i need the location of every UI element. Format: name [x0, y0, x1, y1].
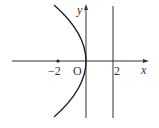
origin-label: O [73, 64, 82, 78]
y-axis-label: y [76, 3, 83, 17]
parabola-diagram: y x O −2 2 [0, 0, 159, 128]
y-axis-arrow-icon [84, 4, 88, 10]
focus-point [56, 59, 59, 62]
neg-two-label: −2 [48, 64, 61, 78]
pos-two-label: 2 [114, 64, 120, 78]
x-axis-label: x [140, 63, 147, 77]
x-axis [12, 59, 149, 63]
